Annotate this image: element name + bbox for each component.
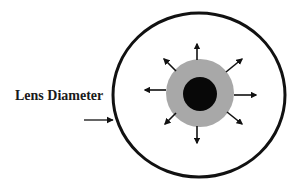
arrow-down-right-icon [227,112,242,124]
lens-diameter-label: Lens Diameter [15,88,103,104]
arrow-up-left-icon [164,59,176,71]
black-core-circle [183,77,217,111]
arrow-down-left-icon [165,113,176,124]
arrow-up-right-icon [226,59,242,72]
